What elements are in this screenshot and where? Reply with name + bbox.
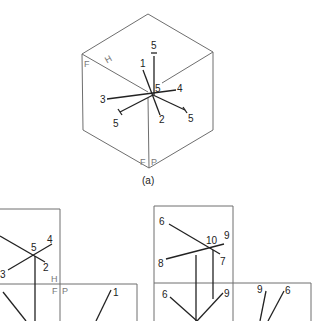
point-label: 5: [113, 118, 119, 129]
point-label: 6: [162, 289, 168, 300]
point-label: 1: [140, 58, 146, 69]
cube-figure-a: [82, 14, 213, 168]
point-label: 5: [188, 113, 194, 124]
point-label: 9: [257, 284, 263, 295]
plane-label-h: H: [103, 53, 114, 65]
point-label: 4: [177, 83, 183, 94]
plane-label-h: H: [51, 274, 58, 284]
point-label: 10: [206, 235, 218, 246]
point-label: 2: [43, 262, 49, 273]
point-label: 8: [158, 258, 164, 269]
point-label: 7: [220, 256, 226, 267]
plane-label-f2: F: [140, 157, 146, 167]
point-label: 5: [155, 83, 161, 94]
point-label: 9: [224, 230, 230, 241]
point-label: 3: [0, 269, 6, 280]
plane-label-p: P: [151, 157, 157, 167]
plane-label-p: P: [62, 286, 68, 296]
point-label: 6: [159, 216, 165, 227]
point-label: 3: [100, 94, 106, 105]
point-label: 1: [113, 287, 119, 298]
point-label: 2: [159, 114, 165, 125]
point-label: 5: [151, 40, 157, 51]
projection-diagram: H F F P 5 1 5 4 3 2 5 5 (a) 5 4 3 2 1 H …: [0, 0, 318, 321]
point-label: 5: [31, 242, 37, 253]
plane-label-f: F: [84, 59, 90, 69]
projection-figure-b: [0, 209, 137, 321]
point-label: 6: [285, 285, 291, 296]
point-label: 4: [47, 234, 53, 245]
plane-label-f: F: [52, 286, 58, 296]
point-label: 9: [224, 288, 230, 299]
figure-caption: (a): [142, 175, 154, 186]
projection-figure-c: [154, 206, 311, 321]
